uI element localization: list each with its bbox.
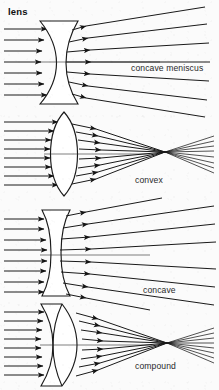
diagram-label-concave-meniscus: concave meniscus xyxy=(131,63,203,73)
outgoing-rays xyxy=(66,7,210,117)
diagram-label-convex: convex xyxy=(135,175,163,185)
diagram-compound: compound xyxy=(4,304,214,386)
incoming-rays xyxy=(4,122,58,185)
diagram-concave: concave xyxy=(4,198,216,310)
diagram-label-compound: compound xyxy=(135,361,176,371)
incoming-rays xyxy=(4,312,44,375)
diagram-label-concave: concave xyxy=(143,285,176,295)
incoming-rays xyxy=(4,219,47,292)
lens-figure: lens xyxy=(0,0,219,390)
page-title: lens xyxy=(8,6,28,17)
diagram-convex: convex xyxy=(4,112,214,196)
outgoing-rays xyxy=(60,198,216,310)
diagram-concave-meniscus: concave meniscus xyxy=(4,7,210,117)
